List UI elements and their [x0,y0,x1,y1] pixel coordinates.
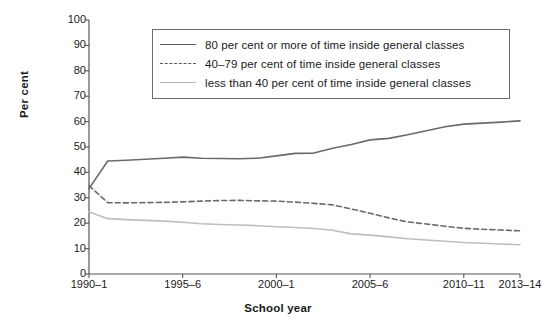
legend-item-label: 80 per cent or more of time inside gener… [205,39,464,51]
x-axis-tick-label: 1995–6 [153,278,213,290]
series-line-0 [89,121,520,189]
legend-item: 80 per cent or more of time inside gener… [160,35,502,54]
series-line-1 [89,186,520,231]
chart-legend: 80 per cent or more of time inside gener… [152,29,510,99]
legend-item: 40–79 per cent of time inside general cl… [160,54,502,73]
x-axis-tick-label: 2005–6 [340,278,400,290]
chart-container: Per cent 1009080706050403020100 1990–119… [0,0,556,328]
x-axis-tick-label: 2010–11 [434,278,494,290]
legend-item: less than 40 per cent of time inside gen… [160,73,502,92]
x-axis-title: School year [0,302,556,314]
x-axis-tick-label: 2000–1 [246,278,306,290]
x-axis-tick-label: 1990–1 [59,278,119,290]
series-line-2 [89,212,520,245]
legend-item-label: less than 40 per cent of time inside gen… [205,77,471,89]
legend-item-label: 40–79 per cent of time inside general cl… [205,58,440,70]
x-axis-tick-label: 2013–14 [490,278,550,290]
